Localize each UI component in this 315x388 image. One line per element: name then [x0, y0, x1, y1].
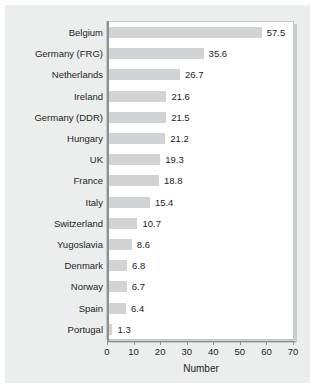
bar-with-value: 21.5 [109, 107, 190, 128]
x-tick-mark [107, 341, 108, 345]
x-tick-mark [187, 341, 188, 345]
bar-with-value: 10.7 [109, 213, 161, 234]
bar [109, 303, 126, 314]
bar-with-value: 6.7 [109, 276, 145, 297]
x-tick-mark [213, 341, 214, 345]
category-label: UK [7, 154, 103, 165]
bar-value-label: 6.7 [132, 281, 145, 292]
category-label: Switzerland [7, 218, 103, 229]
x-tick-label: 30 [181, 346, 192, 357]
bar-with-value: 6.8 [109, 255, 145, 276]
x-tick-mark [160, 341, 161, 345]
bar-row: Switzerland10.7 [5, 213, 315, 234]
chart-screenshot: Belgium57.5Germany (FRG)35.6Netherlands2… [0, 0, 315, 388]
bar [109, 197, 150, 208]
bar-value-label: 19.3 [165, 154, 184, 165]
bar [109, 260, 127, 271]
category-label: Portugal [7, 324, 103, 335]
x-tick-mark [266, 341, 267, 345]
bar-with-value: 8.6 [109, 234, 150, 255]
bar [109, 281, 127, 292]
category-label: Denmark [7, 260, 103, 271]
bar-value-label: 21.2 [170, 133, 189, 144]
bar-value-label: 57.5 [267, 27, 286, 38]
bar-with-value: 19.3 [109, 149, 184, 170]
bar-value-label: 10.7 [142, 218, 161, 229]
category-label: Belgium [7, 27, 103, 38]
x-tick-label: 50 [235, 346, 246, 357]
category-label: France [7, 175, 103, 186]
x-tick-mark [134, 341, 135, 345]
bar-row: Portugal1.3 [5, 319, 315, 340]
bar [109, 91, 166, 102]
x-tick-label: 0 [104, 346, 109, 357]
x-tick-label: 60 [261, 346, 272, 357]
bar-row: Hungary21.2 [5, 128, 315, 149]
bar-with-value: 57.5 [109, 22, 285, 43]
bar-with-value: 35.6 [109, 43, 227, 64]
x-tick-mark [293, 341, 294, 345]
bar-value-label: 35.6 [209, 48, 228, 59]
bar-with-value: 26.7 [109, 64, 203, 85]
category-label: Netherlands [7, 69, 103, 80]
bar-row: Ireland21.6 [5, 86, 315, 107]
x-tick-label: 40 [208, 346, 219, 357]
bar-row: Netherlands26.7 [5, 64, 315, 85]
category-label: Norway [7, 281, 103, 292]
bar-with-value: 21.2 [109, 128, 189, 149]
bar-row: Denmark6.8 [5, 255, 315, 276]
category-label: Germany (DDR) [7, 112, 103, 123]
x-tick-label: 20 [155, 346, 166, 357]
bar-value-label: 8.6 [137, 239, 150, 250]
category-label: Spain [7, 303, 103, 314]
bar [109, 324, 112, 335]
bar-value-label: 1.3 [117, 324, 130, 335]
x-tick-mark [240, 341, 241, 345]
bar [109, 69, 180, 80]
category-label: Yugoslavia [7, 239, 103, 250]
bar-row: UK19.3 [5, 149, 315, 170]
bar-value-label: 26.7 [185, 69, 204, 80]
category-label: Italy [7, 197, 103, 208]
x-axis-ticks: 010203040506070 [107, 341, 295, 346]
category-label: Hungary [7, 133, 103, 144]
bar-with-value: 15.4 [109, 192, 173, 213]
bar-with-value: 21.6 [109, 86, 190, 107]
x-axis-title: Number [107, 363, 295, 374]
bar-value-label: 21.5 [171, 112, 190, 123]
bar-row: Germany (FRG)35.6 [5, 43, 315, 64]
bar-value-label: 21.6 [171, 91, 190, 102]
bar-row: Spain6.4 [5, 297, 315, 318]
bar-row: Norway6.7 [5, 276, 315, 297]
category-label: Germany (FRG) [7, 48, 103, 59]
bar-value-label: 6.8 [132, 260, 145, 271]
bar-with-value: 1.3 [109, 319, 131, 340]
bar-value-label: 18.8 [164, 175, 183, 186]
category-label: Ireland [7, 91, 103, 102]
bar-row: France18.8 [5, 170, 315, 191]
chart-card: Belgium57.5Germany (FRG)35.6Netherlands2… [5, 5, 310, 383]
bar-row: Germany (DDR)21.5 [5, 107, 315, 128]
bar [109, 48, 204, 59]
bar [109, 239, 132, 250]
bar [109, 218, 137, 229]
bar-value-label: 15.4 [155, 197, 174, 208]
bar-row: Yugoslavia8.6 [5, 234, 315, 255]
bar-value-label: 6.4 [131, 303, 144, 314]
bar-row: Italy15.4 [5, 192, 315, 213]
bar [109, 27, 262, 38]
x-tick-label: 10 [128, 346, 139, 357]
x-tick-label: 70 [288, 346, 299, 357]
bar-row: Belgium57.5 [5, 22, 315, 43]
bar [109, 175, 159, 186]
bar-rows: Belgium57.5Germany (FRG)35.6Netherlands2… [5, 22, 315, 341]
bar [109, 154, 160, 165]
bar [109, 133, 165, 144]
bar [109, 112, 166, 123]
bar-with-value: 18.8 [109, 170, 182, 191]
bar-with-value: 6.4 [109, 297, 144, 318]
